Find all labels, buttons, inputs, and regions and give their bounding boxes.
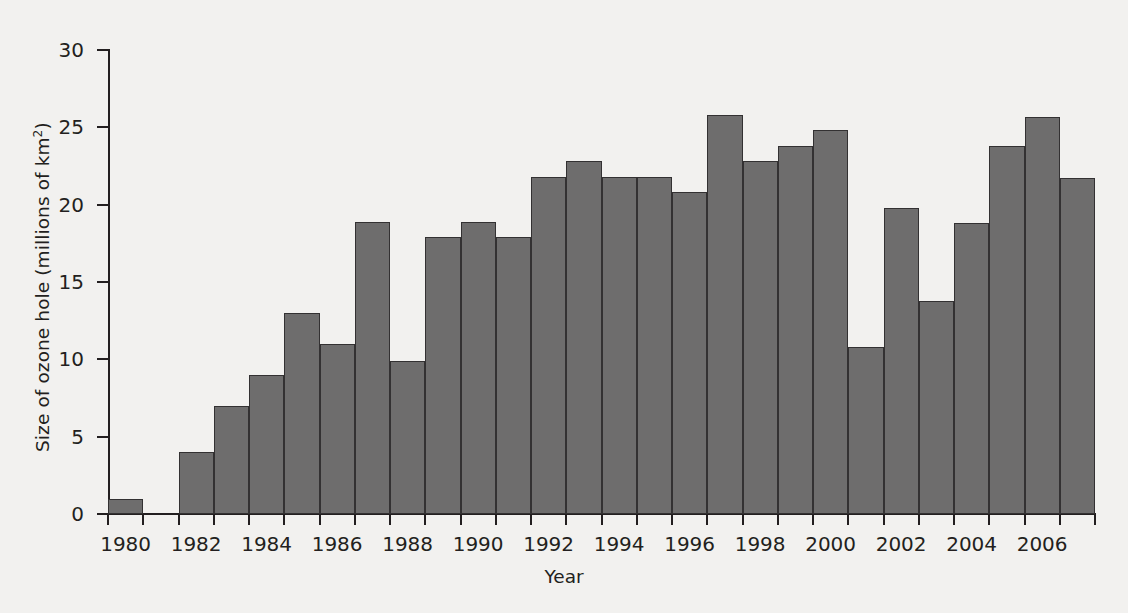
x-axis-tick bbox=[671, 514, 673, 525]
bar bbox=[1060, 178, 1095, 514]
x-axis-tick-label: 1996 bbox=[650, 532, 730, 556]
x-axis-tick bbox=[213, 514, 215, 525]
bar bbox=[355, 222, 390, 514]
x-axis-tick bbox=[460, 514, 462, 525]
bar bbox=[320, 344, 355, 514]
y-axis-tick bbox=[97, 436, 108, 438]
y-axis-tick-label: 10 bbox=[38, 349, 84, 369]
x-axis-tick bbox=[354, 514, 356, 525]
x-axis-tick bbox=[812, 514, 814, 525]
x-axis-tick bbox=[988, 514, 990, 525]
y-axis-tick-label: 5 bbox=[38, 427, 84, 447]
x-axis-tick bbox=[847, 514, 849, 525]
x-axis-tick bbox=[530, 514, 532, 525]
x-axis-tick bbox=[883, 514, 885, 525]
bar bbox=[848, 347, 883, 514]
bar bbox=[954, 223, 989, 514]
x-axis-tick-label: 1998 bbox=[720, 532, 800, 556]
x-axis-tick bbox=[178, 514, 180, 525]
x-axis-tick-label: 1984 bbox=[227, 532, 307, 556]
bar bbox=[496, 237, 531, 514]
x-axis-tick bbox=[1024, 514, 1026, 525]
x-axis-tick bbox=[283, 514, 285, 525]
bar bbox=[179, 452, 214, 514]
bar bbox=[425, 237, 460, 514]
x-axis-tick bbox=[636, 514, 638, 525]
x-axis-tick-label: 2002 bbox=[861, 532, 941, 556]
x-axis-tick-label: 1988 bbox=[368, 532, 448, 556]
x-axis-tick bbox=[1059, 514, 1061, 525]
x-axis-tick bbox=[706, 514, 708, 525]
x-axis-tick bbox=[777, 514, 779, 525]
x-axis-tick bbox=[601, 514, 603, 525]
bar bbox=[707, 115, 742, 514]
x-axis-tick-label: 1994 bbox=[579, 532, 659, 556]
bar bbox=[637, 177, 672, 514]
y-axis-tick-label: 20 bbox=[38, 195, 84, 215]
x-axis-tick-label: 1992 bbox=[509, 532, 589, 556]
y-axis-tick-label: 30 bbox=[38, 40, 84, 60]
y-axis-tick bbox=[97, 204, 108, 206]
bar bbox=[214, 406, 249, 514]
x-axis-tick-label: 1982 bbox=[156, 532, 236, 556]
x-axis-tick bbox=[918, 514, 920, 525]
x-axis-tick-label: 2006 bbox=[1002, 532, 1082, 556]
bar bbox=[919, 301, 954, 514]
x-axis-tick-label: 1990 bbox=[438, 532, 518, 556]
x-axis-tick bbox=[953, 514, 955, 525]
bar bbox=[566, 161, 601, 514]
bar bbox=[284, 313, 319, 514]
bar bbox=[108, 499, 143, 514]
x-axis-tick bbox=[742, 514, 744, 525]
x-axis-tick bbox=[107, 514, 109, 525]
bar bbox=[778, 146, 813, 514]
y-axis-tick bbox=[97, 49, 108, 51]
x-axis-tick bbox=[1094, 514, 1096, 525]
x-axis-tick bbox=[389, 514, 391, 525]
x-axis-tick bbox=[565, 514, 567, 525]
x-axis-tick bbox=[319, 514, 321, 525]
bar bbox=[813, 130, 848, 514]
bar bbox=[884, 208, 919, 514]
x-axis-tick bbox=[424, 514, 426, 525]
y-axis-tick-label: 15 bbox=[38, 272, 84, 292]
bar bbox=[531, 177, 566, 514]
x-axis-tick bbox=[495, 514, 497, 525]
bar bbox=[390, 361, 425, 514]
y-axis-tick bbox=[97, 126, 108, 128]
bar bbox=[1025, 117, 1060, 514]
plot-area: 0510152025301980198219841986198819901992… bbox=[108, 50, 1095, 514]
y-axis-tick-label: 0 bbox=[38, 504, 84, 524]
x-axis-tick-label: 2004 bbox=[932, 532, 1012, 556]
bar bbox=[249, 375, 284, 514]
y-axis-tick-label: 25 bbox=[38, 117, 84, 137]
bar bbox=[602, 177, 637, 514]
x-axis-tick-label: 1986 bbox=[297, 532, 377, 556]
x-axis-tick bbox=[142, 514, 144, 525]
x-axis-label: Year bbox=[0, 566, 1128, 587]
y-axis-tick bbox=[97, 358, 108, 360]
x-axis-tick-label: 2000 bbox=[791, 532, 871, 556]
x-axis-tick bbox=[248, 514, 250, 525]
bar bbox=[743, 161, 778, 514]
bar-chart: Size of ozone hole (millions of km2) 051… bbox=[0, 0, 1128, 613]
bar bbox=[989, 146, 1024, 514]
bar bbox=[461, 222, 496, 514]
x-axis-tick-label: 1980 bbox=[86, 532, 166, 556]
y-axis-tick bbox=[97, 281, 108, 283]
bar bbox=[672, 192, 707, 514]
y-axis-label-text: Size of ozone hole (millions of km bbox=[32, 137, 53, 452]
